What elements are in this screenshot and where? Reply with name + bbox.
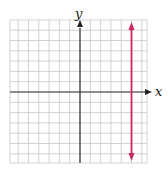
x-axis-arrow-icon xyxy=(145,89,152,95)
y-axis-label: y xyxy=(74,6,83,21)
x-axis-label: x xyxy=(155,84,163,99)
y-axis-arrow-icon xyxy=(77,20,83,27)
line-arrow-down-icon xyxy=(129,153,135,161)
line-arrow-up-icon xyxy=(129,22,135,30)
coordinate-plane: x y xyxy=(0,0,168,176)
